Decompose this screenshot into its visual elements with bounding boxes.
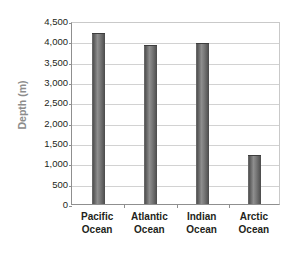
x-axis-category-label-line: Ocean [71,223,123,236]
x-axis-category-label: PacificOcean [71,210,123,236]
x-axis-tick-mark [229,204,230,208]
y-axis-tick-label: 3,500 [26,58,68,68]
x-axis-category-label-line: Atlantic [131,211,168,222]
bar[interactable] [144,45,157,204]
y-axis-tick-mark [69,206,72,207]
x-axis-category-label-line: Ocean [228,223,280,236]
y-axis-tick-label: 1,500 [26,139,68,149]
plot-area [71,22,280,205]
y-axis-tick-label: 3,000 [26,78,68,88]
x-axis-category-label-line: Ocean [123,223,175,236]
y-axis-tick-label: 0 [26,200,68,210]
y-axis-tick-label: 500 [26,180,68,190]
bars-layer [72,23,279,204]
bar-slot [177,23,229,204]
x-axis-category-label-line: Ocean [176,223,228,236]
y-axis-tick-label: 1,000 [26,160,68,170]
y-axis-tick-labels: 4,5004,0003,5003,0002,5002,0001,5001,000… [26,16,68,206]
x-axis-category-label: AtlanticOcean [123,210,175,236]
x-axis-category-label: ArcticOcean [228,210,280,236]
y-axis-tick-label: 4,500 [26,17,68,27]
x-axis-category-label-line: Pacific [81,211,113,222]
bar-slot [229,23,281,204]
x-axis-category-label-line: Indian [187,211,216,222]
x-axis-tick-mark [124,204,125,208]
x-axis-category-label-line: Arctic [240,211,268,222]
bar[interactable] [248,155,261,204]
y-axis-tick-label: 2,000 [26,119,68,129]
x-axis-category-label: IndianOcean [176,210,228,236]
x-axis-tick-mark [177,204,178,208]
x-axis-category-labels: PacificOceanAtlanticOceanIndianOceanArct… [71,210,280,250]
bar[interactable] [196,43,209,204]
bar-slot [124,23,176,204]
y-axis-tick-label: 4,000 [26,38,68,48]
bar-chart: Depth (m) 4,5004,0003,5003,0002,5002,000… [0,0,300,256]
bar-slot [72,23,124,204]
y-axis-tick-label: 2,500 [26,99,68,109]
bar[interactable] [92,33,105,204]
